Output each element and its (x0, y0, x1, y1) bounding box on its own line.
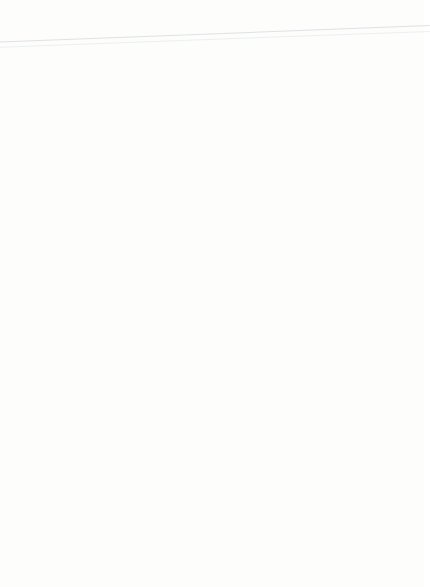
pie-chart-outward-stocks (0, 10, 424, 272)
pie-svg-bottom (0, 300, 424, 587)
pie-chart-inward-stocks (0, 300, 424, 587)
pie-svg-top (0, 10, 424, 272)
